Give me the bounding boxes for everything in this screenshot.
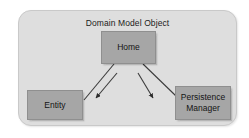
node-entity-label: Entity	[42, 100, 67, 111]
node-home-label: Home	[115, 42, 142, 53]
panel-title: Domain Model Object	[19, 18, 236, 28]
node-persistence-manager-label-line1: Persistence	[181, 92, 225, 102]
node-entity[interactable]: Entity	[27, 90, 83, 120]
node-home[interactable]: Home	[101, 31, 156, 64]
node-persistence-manager-label: Persistence Manager	[179, 92, 227, 114]
node-persistence-manager[interactable]: Persistence Manager	[175, 86, 231, 120]
diagram-canvas: Domain Model Object Home Entity Persiste…	[0, 0, 249, 138]
node-persistence-manager-label-line2: Manager	[186, 103, 220, 113]
